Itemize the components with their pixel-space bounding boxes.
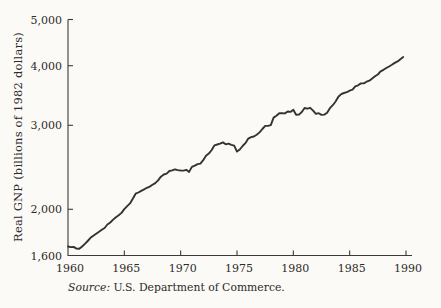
x-tick-label: 1965 xyxy=(112,262,140,275)
scanned-chart-page: 1,6002,0003,0004,0005,000196019651970197… xyxy=(0,0,441,308)
y-axis-title: Real GNP (billions of 1982 dollars) xyxy=(11,32,25,242)
y-tick-label: 2,000 xyxy=(31,203,63,216)
source-label: Source: xyxy=(68,281,110,294)
y-tick-label: 5,000 xyxy=(31,14,63,27)
y-tick-label: 1,600 xyxy=(31,250,63,263)
source-text: U.S. Department of Commerce. xyxy=(110,281,285,294)
gnp-line xyxy=(68,57,403,249)
y-tick-label: 3,000 xyxy=(31,119,63,132)
x-tick-label: 1975 xyxy=(225,262,253,275)
x-tick-label: 1970 xyxy=(169,262,197,275)
x-tick-label: 1990 xyxy=(394,262,422,275)
x-tick-label: 1985 xyxy=(338,262,366,275)
axes xyxy=(68,20,412,256)
chart-canvas: 1,6002,0003,0004,0005,000196019651970197… xyxy=(0,0,441,308)
y-tick-label: 4,000 xyxy=(31,60,63,73)
x-tick-label: 1960 xyxy=(56,262,84,275)
source-note: Source: U.S. Department of Commerce. xyxy=(68,281,285,294)
x-tick-label: 1980 xyxy=(281,262,309,275)
